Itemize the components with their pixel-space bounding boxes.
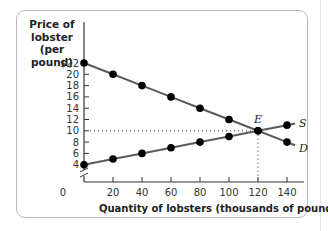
curve-labels: DSE (253, 113, 308, 155)
y-tick-label: $22 (60, 58, 79, 69)
y-tick-label: 18 (66, 80, 79, 91)
data-point (138, 82, 146, 90)
x-tick-label: 100 (219, 187, 238, 198)
data-point (80, 161, 88, 169)
data-point (225, 133, 233, 141)
data-point (283, 121, 291, 129)
y-tick-label: 4 (73, 159, 79, 170)
y-tick-label: 14 (66, 103, 79, 114)
y-tick-label: 10 (66, 125, 79, 136)
y-tick-label: 6 (73, 148, 79, 159)
data-point (196, 138, 204, 146)
y-tick-label: 12 (66, 114, 79, 125)
data-point (254, 127, 262, 135)
y-tick-label: 20 (66, 69, 79, 80)
ticks: $22201816141210864020406080100120140 (60, 58, 297, 199)
data-point (80, 59, 88, 67)
x-tick-label: 120 (248, 187, 267, 198)
equilibrium-label: E (253, 113, 262, 126)
x-tick-label: 0 (60, 187, 66, 198)
data-point (283, 138, 291, 146)
x-tick-label: 20 (107, 187, 120, 198)
supply-demand-chart: $22201816141210864020406080100120140 DSE (0, 0, 328, 231)
x-tick-label: 80 (194, 187, 207, 198)
y-tick-label: 8 (73, 137, 79, 148)
data-point (138, 150, 146, 158)
x-tick-label: 140 (277, 187, 296, 198)
y-tick-label: 16 (66, 91, 79, 102)
supply-label: S (299, 117, 307, 130)
data-point (167, 93, 175, 101)
data-point (225, 116, 233, 124)
curves (84, 63, 295, 165)
x-tick-label: 40 (136, 187, 149, 198)
data-point (196, 104, 204, 112)
data-point (167, 144, 175, 152)
x-tick-label: 60 (165, 187, 178, 198)
data-point (109, 71, 117, 79)
demand-label: D (298, 142, 308, 155)
data-point (109, 155, 117, 163)
equilibrium-guides (90, 131, 258, 181)
